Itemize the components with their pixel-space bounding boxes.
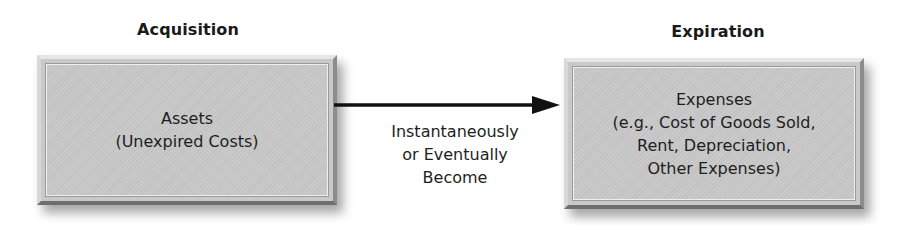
connector-label-line-2: or Eventually [360,143,550,166]
heading-expiration: Expiration [652,22,784,41]
expenses-example-line-1: (e.g., Cost of Goods Sold, [613,111,816,134]
assets-title: Assets [161,107,213,130]
connector-label-line-3: Become [360,166,550,189]
expenses-example-line-3: Other Expenses) [648,157,781,180]
expenses-box-content: Expenses (e.g., Cost of Goods Sold, Rent… [572,66,856,201]
connector-label: Instantaneously or Eventually Become [360,120,550,189]
assets-box: Assets (Unexpired Costs) [37,55,337,205]
expenses-title: Expenses [676,88,752,111]
heading-acquisition: Acquisition [122,20,254,39]
connector-label-line-1: Instantaneously [360,120,550,143]
assets-box-content: Assets (Unexpired Costs) [45,63,329,197]
expenses-box: Expenses (e.g., Cost of Goods Sold, Rent… [564,58,864,209]
arrow-right-icon [334,94,562,116]
expenses-example-line-2: Rent, Depreciation, [637,134,791,157]
assets-subtitle: (Unexpired Costs) [115,130,258,153]
